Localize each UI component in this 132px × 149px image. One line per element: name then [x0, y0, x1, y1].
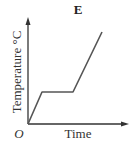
origin-label: O	[14, 126, 24, 141]
temperature-line	[28, 32, 102, 124]
x-axis-label: Time	[65, 126, 92, 141]
chart-title: E	[74, 2, 83, 17]
x-axis-arrow-icon	[121, 122, 129, 127]
chart-canvas: E Temperature °C O Time	[0, 0, 132, 149]
y-axis-label: Temperature °C	[9, 31, 24, 114]
y-axis-arrow-icon	[26, 17, 31, 25]
